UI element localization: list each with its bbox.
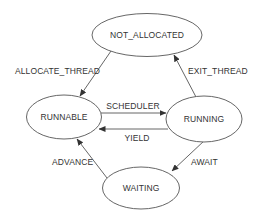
edge-label-advance: ADVANCE	[52, 157, 93, 167]
node-label-runnable: RUNNABLE	[40, 112, 87, 122]
diagram-canvas: ALLOCATE_THREAD EXIT_THREAD SCHEDULER YI…	[0, 0, 263, 222]
state-diagram: ALLOCATE_THREAD EXIT_THREAD SCHEDULER YI…	[0, 0, 263, 222]
edge-await: AWAIT	[172, 140, 218, 171]
edge-exit-thread: EXIT_THREAD	[174, 55, 248, 97]
edge-advance: ADVANCE	[52, 139, 107, 178]
node-waiting: WAITING	[103, 167, 180, 209]
edge-label-yield: YIELD	[124, 133, 149, 143]
edge-label-exit-thread: EXIT_THREAD	[188, 66, 248, 76]
edge-yield: YIELD	[99, 129, 168, 143]
node-label-waiting: WAITING	[123, 183, 160, 193]
edge-label-allocate-thread: ALLOCATE_THREAD	[15, 66, 100, 76]
node-label-not-allocated: NOT_ALLOCATED	[110, 30, 184, 40]
edge-label-await: AWAIT	[191, 157, 218, 167]
node-running: RUNNING	[166, 96, 242, 142]
node-runnable: RUNNABLE	[27, 95, 102, 139]
edge-label-scheduler: SCHEDULER	[106, 101, 159, 111]
edge-allocate-thread: ALLOCATE_THREAD	[15, 51, 111, 96]
node-label-running: RUNNING	[184, 114, 224, 124]
node-not-allocated: NOT_ALLOCATED	[92, 14, 202, 57]
arrow-exit-thread	[174, 55, 196, 97]
edge-scheduler: SCHEDULER	[101, 101, 166, 113]
